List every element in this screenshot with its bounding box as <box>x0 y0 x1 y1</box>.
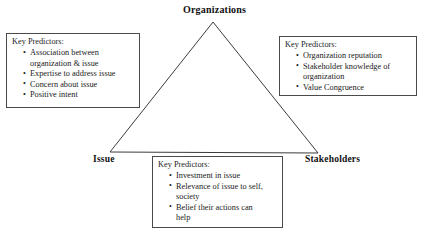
diagram-canvas: Organizations Issue Stakeholders Key Pre… <box>0 0 423 238</box>
list-item-text: Concern about issue <box>30 80 97 89</box>
list-item-text: Relevance of issue to self, <box>176 182 263 191</box>
list-item: Belief their actions can help <box>169 203 278 224</box>
list-item-text: Value Congruence <box>303 83 364 92</box>
vertex-label-stakeholders: Stakeholders <box>305 154 360 164</box>
list-item-continuation: organization <box>303 72 412 83</box>
list-item-text: Expertise to address issue <box>30 69 116 78</box>
predictor-box-heading: Key Predictors: <box>12 37 135 48</box>
list-item-continuation: help <box>176 213 278 224</box>
predictor-box-issue: Key Predictors: Investment in issue Rele… <box>152 156 283 228</box>
list-item: Stakeholder knowledge of organization <box>296 62 412 83</box>
list-item-continuation: organization & issue <box>30 59 135 70</box>
list-item: Relevance of issue to self, society <box>169 182 278 203</box>
list-item: Organization reputation <box>296 51 412 62</box>
predictor-box-organizations: Key Predictors: Association between orga… <box>6 33 140 108</box>
list-item-text: Positive intent <box>30 90 78 99</box>
predictor-list: Investment in issue Relevance of issue t… <box>158 171 278 224</box>
predictor-box-heading: Key Predictors: <box>285 40 412 51</box>
vertex-label-issue: Issue <box>93 154 115 164</box>
predictor-box-heading: Key Predictors: <box>158 160 278 171</box>
list-item: Investment in issue <box>169 171 278 182</box>
vertex-label-organizations: Organizations <box>183 4 246 15</box>
list-item-text: Association between <box>30 48 99 57</box>
list-item-text: Belief their actions can <box>176 203 253 212</box>
predictor-list: Organization reputation Stakeholder know… <box>285 51 412 93</box>
predictor-box-stakeholders: Key Predictors: Organization reputation … <box>279 36 417 96</box>
list-item-text: Organization reputation <box>303 51 382 60</box>
list-item: Concern about issue <box>23 80 135 91</box>
list-item: Positive intent <box>23 90 135 101</box>
list-item-text: Stakeholder knowledge of <box>303 62 390 71</box>
list-item: Value Congruence <box>296 83 412 94</box>
list-item: Expertise to address issue <box>23 69 135 80</box>
list-item: Association between organization & issue <box>23 48 135 69</box>
list-item-continuation: society <box>176 192 278 203</box>
predictor-list: Association between organization & issue… <box>12 48 135 101</box>
list-item-text: Investment in issue <box>176 171 240 180</box>
